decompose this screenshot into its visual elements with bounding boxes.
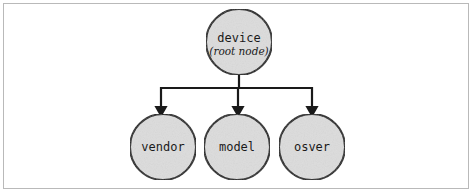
node-vendor[interactable]: vendor	[130, 114, 196, 180]
node-device-label: device	[217, 31, 260, 45]
tree-diagram: device (root node) vendor model osver	[0, 0, 475, 196]
node-model[interactable]: model	[204, 114, 270, 180]
node-osver[interactable]: osver	[279, 114, 345, 180]
node-osver-label: osver	[294, 140, 330, 154]
node-device[interactable]: device (root node)	[206, 9, 272, 75]
node-device-sublabel: (root node)	[209, 45, 268, 57]
edge-group	[161, 75, 312, 107]
figure-container: device (root node) vendor model osver	[0, 0, 475, 196]
node-vendor-label: vendor	[141, 140, 184, 154]
node-model-label: model	[219, 140, 255, 154]
